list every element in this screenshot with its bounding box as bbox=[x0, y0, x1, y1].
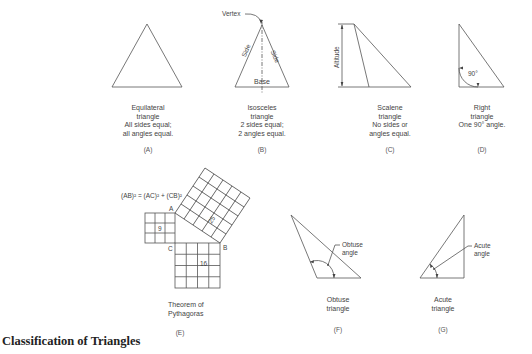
square-16-label: 16 bbox=[200, 260, 207, 268]
caption-line: 2 sides equal; bbox=[238, 121, 285, 130]
acute-leader bbox=[434, 246, 468, 269]
figure-letter-g: (G) bbox=[438, 326, 447, 333]
caption-line: triangle bbox=[459, 113, 506, 122]
label-line: Obtuse bbox=[342, 241, 363, 249]
right-triangle bbox=[459, 24, 504, 87]
square-9-label: 9 bbox=[158, 225, 162, 233]
caption-line: Scalene bbox=[369, 104, 411, 113]
caption-obtuse: Obtuse triangle bbox=[327, 296, 350, 313]
diagram-title: Classification of Triangles bbox=[2, 334, 140, 349]
caption-line: triangle bbox=[432, 305, 455, 314]
figure-letter-b: (B) bbox=[258, 146, 267, 153]
figure-letter-d: (D) bbox=[477, 146, 486, 153]
figure-letter-c: (C) bbox=[385, 146, 394, 153]
caption-line: One 90° angle. bbox=[459, 121, 506, 130]
scalene-triangle bbox=[354, 24, 411, 87]
caption-right: Right triangle One 90° angle. bbox=[459, 104, 506, 130]
pythagoras-formula: (AB)² = (AC)² + (CB)² bbox=[121, 192, 182, 200]
right-angle-arrow-2 bbox=[477, 83, 480, 87]
label-line: angle bbox=[474, 250, 491, 258]
caption-line: triangle bbox=[369, 113, 411, 122]
vertex-leader bbox=[245, 14, 261, 22]
square-25 bbox=[175, 168, 250, 243]
base-label: Base bbox=[254, 78, 270, 86]
figure-letter-e: (E) bbox=[176, 329, 185, 336]
caption-isosceles: Isosceles triangle 2 sides equal; 2 angl… bbox=[238, 104, 285, 138]
label-line: Acute bbox=[474, 242, 491, 250]
point-b-label: B bbox=[223, 244, 227, 252]
vertex-label: Vertex bbox=[222, 10, 240, 18]
figure-letter-f: (F) bbox=[334, 326, 342, 333]
caption-line: Theorem of bbox=[168, 301, 204, 310]
caption-line: Acute bbox=[432, 296, 455, 305]
caption-scalene: Scalene triangle No sides or angles equa… bbox=[369, 104, 411, 138]
caption-line: Pythagoras bbox=[168, 310, 204, 319]
caption-line: angles equal. bbox=[369, 130, 411, 139]
caption-line: Equilateral bbox=[123, 104, 174, 113]
altitude-arrow-top bbox=[341, 25, 344, 30]
caption-line: triangle bbox=[327, 305, 350, 314]
caption-line: Isosceles bbox=[238, 104, 285, 113]
caption-line: triangle bbox=[238, 113, 285, 122]
square-16 bbox=[175, 243, 220, 288]
caption-line: Right bbox=[459, 104, 506, 113]
caption-line: No sides or bbox=[369, 121, 411, 130]
caption-equilateral: Equilateral triangle All sides equal; al… bbox=[123, 104, 174, 138]
caption-line: all angles equal. bbox=[123, 130, 174, 139]
caption-pythagoras: Theorem of Pythagoras bbox=[168, 301, 204, 318]
caption-line: 2 angles equal. bbox=[238, 130, 285, 139]
caption-acute: Acute triangle bbox=[432, 296, 455, 313]
caption-line: Obtuse bbox=[327, 296, 350, 305]
caption-line: triangle bbox=[123, 113, 174, 122]
point-a-label: A bbox=[169, 205, 173, 213]
point-c-label: C bbox=[168, 245, 173, 253]
obtuse-leader bbox=[328, 245, 335, 265]
acute-triangle bbox=[420, 215, 464, 278]
equilateral-triangle bbox=[112, 24, 182, 87]
right-angle-label: 90° bbox=[468, 70, 478, 78]
altitude-label: Altitude bbox=[333, 46, 341, 68]
figure-letter-a: (A) bbox=[144, 146, 153, 153]
obtuse-angle-label: Obtuse angle bbox=[342, 241, 363, 256]
vertex-arrow bbox=[260, 20, 264, 25]
acute-angle-label: Acute angle bbox=[474, 242, 491, 257]
altitude-arrow-bottom bbox=[341, 82, 344, 87]
right-angle-arrow-1 bbox=[459, 67, 463, 70]
label-line: angle bbox=[342, 249, 363, 257]
caption-line: All sides equal; bbox=[123, 121, 174, 130]
